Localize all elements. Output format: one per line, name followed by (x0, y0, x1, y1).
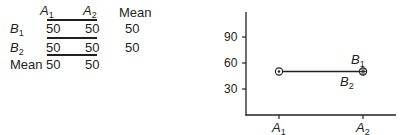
x-tick-label-a2: A2 (356, 121, 370, 135)
plot-axes (0, 0, 409, 135)
x-tick-label-a1: A1 (272, 121, 286, 135)
y-tick-label-30: 30 (224, 83, 237, 96)
y-tick-label-90: 90 (224, 31, 237, 44)
series-label-b2: B2 (340, 75, 354, 93)
marker-a1 (275, 68, 282, 75)
y-tick-label-60: 60 (224, 57, 237, 70)
series-label-b1: B1 (351, 53, 365, 71)
